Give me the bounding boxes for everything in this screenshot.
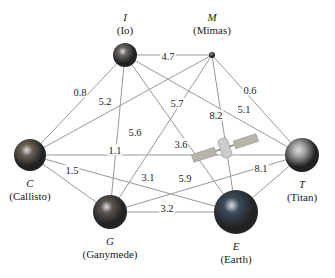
edge-weight-label: 4.7 — [160, 51, 175, 62]
edge-weight-label: 8.1 — [253, 163, 268, 174]
node-label: G(Ganymede) — [83, 235, 138, 261]
edge-weight-label: 5.9 — [177, 173, 192, 184]
node-earth — [214, 190, 258, 234]
node-name: (Callisto) — [9, 190, 51, 202]
edge-weight-label: 5.7 — [169, 98, 184, 109]
edge-weight-label: 3.1 — [140, 172, 155, 183]
node-label: T(Titan) — [287, 178, 317, 204]
edge-weight-label: 0.8 — [72, 87, 87, 98]
edge-weight-label: 8.2 — [208, 110, 223, 121]
node-label: E(Earth) — [220, 240, 251, 266]
node-ganymede — [93, 195, 127, 229]
node-letter: T — [287, 178, 317, 191]
node-callisto — [14, 139, 46, 171]
node-letter: E — [220, 240, 251, 253]
graph-canvas — [0, 0, 335, 278]
node-name: (Earth) — [220, 253, 251, 265]
node-name: (Ganymede) — [83, 248, 138, 260]
node-label: I(Io) — [117, 11, 134, 37]
node-name: (Mimas) — [193, 24, 231, 36]
edge-weight-label: 3.6 — [173, 139, 188, 150]
node-name: (Io) — [117, 24, 134, 36]
weighted-graph-diagram: 4.70.85.25.10.65.61.15.73.68.21.53.15.93… — [0, 0, 335, 278]
node-letter: C — [9, 177, 51, 190]
node-letter: I — [117, 11, 134, 24]
node-label: M(Mimas) — [193, 11, 231, 37]
node-letter: M — [193, 11, 231, 24]
edge-weight-label: 1.5 — [64, 165, 79, 176]
edge-I-T — [125, 55, 302, 155]
node-titan — [285, 138, 319, 172]
edge-weight-label: 5.2 — [97, 96, 112, 107]
node-name: (Titan) — [287, 191, 317, 203]
edge-weight-label: 0.6 — [242, 85, 257, 96]
node-letter: G — [83, 235, 138, 248]
edge-weight-label: 3.2 — [159, 203, 174, 214]
edge-I-G — [110, 55, 125, 212]
edge-weight-label: 5.6 — [127, 127, 142, 138]
node-label: C(Callisto) — [9, 177, 51, 203]
node-io — [113, 43, 137, 67]
edge-weight-label: 5.1 — [236, 104, 251, 115]
edge-M-E — [212, 55, 236, 212]
edge-M-G — [110, 55, 212, 212]
edge-weight-label: 1.1 — [107, 145, 122, 156]
node-mimas — [209, 52, 215, 58]
